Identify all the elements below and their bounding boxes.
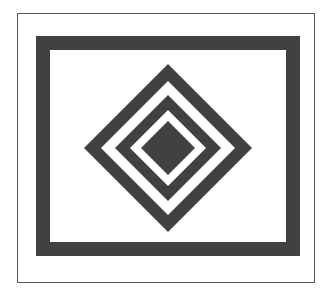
figure-canvas bbox=[0, 0, 330, 296]
